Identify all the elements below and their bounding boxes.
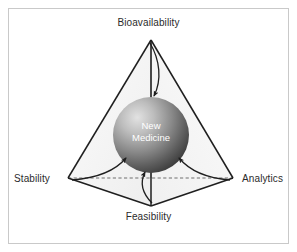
core-sphere <box>113 97 189 173</box>
vertex-label-analytics: Analytics <box>242 173 283 184</box>
vertex-label-feasibility: Feasibility <box>0 211 297 222</box>
vertex-label-bioavailability: Bioavailability <box>0 17 297 28</box>
figure-container: New Medicine Bioavailability Stability A… <box>0 0 297 252</box>
vertex-label-stability: Stability <box>14 173 50 184</box>
